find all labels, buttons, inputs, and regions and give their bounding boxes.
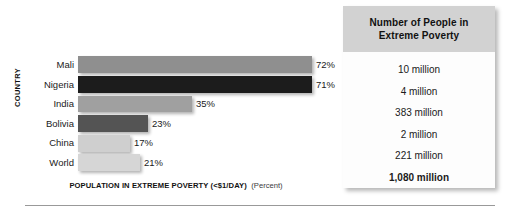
- table-header-line-2: Extreme Poverty: [379, 30, 459, 41]
- bar: [78, 96, 192, 113]
- bar-value-label: 35%: [196, 94, 215, 114]
- bar-row: China17%: [26, 133, 326, 153]
- table-header: Number of People in Extreme Poverty: [343, 6, 495, 52]
- bar-category-label: World: [26, 153, 74, 173]
- table-cell-value: 10 million: [343, 59, 495, 81]
- bar-category-label: Nigeria: [26, 75, 74, 95]
- x-axis-title: POPULATION IN EXTREME POVERTY (<$1/DAY) …: [26, 174, 326, 192]
- bar-wrapper: [78, 96, 192, 113]
- bar-row: Mali72%: [26, 55, 326, 75]
- table-cell-value: 1,080 million: [343, 167, 495, 189]
- x-axis-title-main: POPULATION IN EXTREME POVERTY (<$1/DAY): [69, 181, 246, 190]
- table-cell-value: 2 million: [343, 124, 495, 146]
- table-header-line-1: Number of People in: [369, 17, 468, 28]
- bar: [78, 154, 140, 171]
- bar-value-label: 21%: [144, 153, 163, 173]
- bar-value-label: 23%: [152, 114, 171, 134]
- bar-wrapper: [78, 76, 312, 93]
- bar-row: India35%: [26, 94, 326, 114]
- bar: [78, 56, 312, 73]
- bar-value-label: 72%: [316, 55, 335, 75]
- bar: [78, 135, 130, 152]
- bottom-divider: [25, 205, 495, 206]
- bar: [78, 115, 148, 132]
- table-cell-value: 221 million: [343, 145, 495, 167]
- plot-area: Mali72%Nigeria71%India35%Bolivia23%China…: [26, 55, 326, 173]
- bar-category-label: India: [26, 94, 74, 114]
- bar-row: Nigeria71%: [26, 75, 326, 95]
- table-cell-value: 383 million: [343, 102, 495, 124]
- bar-category-label: Bolivia: [26, 114, 74, 134]
- bar: [78, 76, 312, 93]
- bar-wrapper: [78, 135, 130, 152]
- bar-row: Bolivia23%: [26, 114, 326, 134]
- table-body: 10 million4 million383 million2 million2…: [343, 52, 495, 188]
- bar-wrapper: [78, 154, 140, 171]
- bar-chart-panel: COUNTRY Mali72%Nigeria71%India35%Bolivia…: [0, 0, 336, 190]
- y-axis-title: COUNTRY: [13, 50, 22, 126]
- figure-root: COUNTRY Mali72%Nigeria71%India35%Bolivia…: [0, 0, 511, 213]
- poverty-count-table: Number of People in Extreme Poverty 10 m…: [343, 6, 495, 188]
- bar-value-label: 17%: [134, 133, 153, 153]
- bar-row: World21%: [26, 153, 326, 173]
- bar-wrapper: [78, 115, 148, 132]
- bar-category-label: China: [26, 133, 74, 153]
- table-cell-value: 4 million: [343, 81, 495, 103]
- bar-category-label: Mali: [26, 55, 74, 75]
- bar-value-label: 71%: [316, 75, 335, 95]
- bar-wrapper: [78, 56, 312, 73]
- x-axis-title-unit: (Percent): [251, 181, 282, 190]
